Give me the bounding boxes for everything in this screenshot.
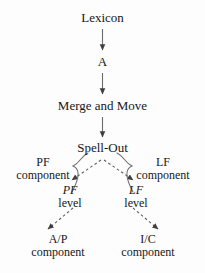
node-numeration-label: A: [0, 55, 205, 69]
node-lf-component: LF component: [126, 156, 200, 182]
node-pf-component-line2: component: [6, 169, 80, 182]
node-merge-and-move-label: Merge and Move: [0, 99, 205, 113]
node-ic-component: I/C component: [110, 233, 186, 259]
edge-lf-level-to-ic: [133, 208, 158, 229]
node-pf-level: PF level: [44, 184, 96, 210]
node-lf-component-line1: LF: [126, 156, 200, 169]
derivation-diagram: Lexicon A Merge and Move Spell-Out PF co…: [0, 0, 205, 273]
node-ap-component-line1: A/P: [20, 233, 96, 246]
node-lf-component-line2: component: [126, 169, 200, 182]
node-lexicon: Lexicon: [0, 11, 205, 25]
node-ic-component-line2: component: [110, 246, 186, 259]
node-spell-out: Spell-Out: [0, 141, 205, 155]
node-ap-component: A/P component: [20, 233, 96, 259]
node-lexicon-label: Lexicon: [0, 11, 205, 25]
node-pf-level-line2: level: [44, 197, 96, 210]
node-ic-component-line1: I/C: [110, 233, 186, 246]
node-merge-and-move: Merge and Move: [0, 99, 205, 113]
edge-pf-level-to-ap: [48, 208, 73, 229]
node-pf-level-line1: PF: [44, 184, 96, 197]
node-lf-level: LF level: [110, 184, 162, 210]
node-numeration: A: [0, 55, 205, 69]
node-pf-component-line1: PF: [6, 156, 80, 169]
node-pf-component: PF component: [6, 156, 80, 182]
node-lf-level-line1: LF: [110, 184, 162, 197]
node-spell-out-label: Spell-Out: [0, 141, 205, 155]
node-ap-component-line2: component: [20, 246, 96, 259]
node-lf-level-line2: level: [110, 197, 162, 210]
